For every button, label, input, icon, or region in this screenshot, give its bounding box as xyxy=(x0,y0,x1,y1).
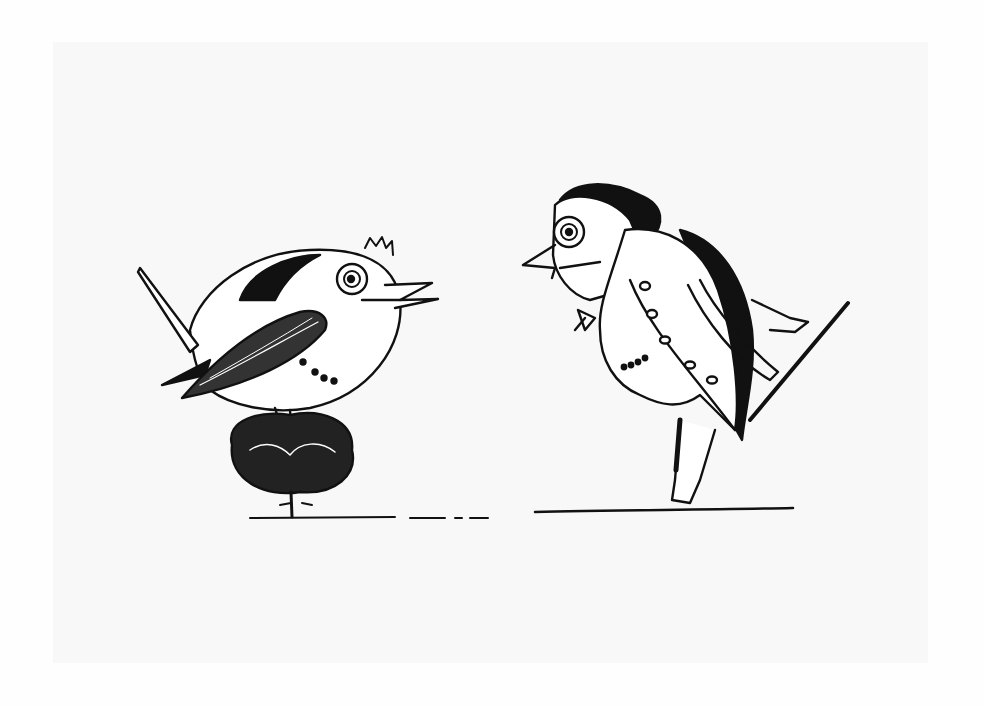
illustration xyxy=(0,0,984,706)
coated-bird xyxy=(523,184,848,512)
round-bird xyxy=(138,237,488,518)
